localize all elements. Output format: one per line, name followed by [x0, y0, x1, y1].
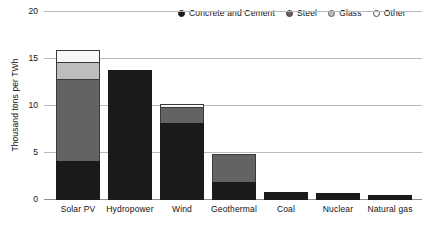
bar-group[interactable]	[368, 11, 412, 199]
bar-stack	[108, 70, 152, 199]
bar-stack	[212, 154, 256, 199]
x-axis-labels: Solar PVHydropowerWindGeothermalCoalNucl…	[44, 203, 422, 223]
bar-segment[interactable]	[212, 154, 256, 183]
bar-group[interactable]	[316, 11, 360, 199]
bar-segment[interactable]	[56, 62, 100, 80]
bars-container	[44, 11, 422, 199]
bar-segment[interactable]	[316, 193, 360, 200]
y-tick-label-20: 20	[29, 7, 38, 16]
bar-group[interactable]	[212, 11, 256, 199]
bar-segment[interactable]	[108, 70, 152, 200]
bar-segment[interactable]	[160, 123, 204, 200]
bar-stack	[56, 50, 100, 199]
y-tick-label-0: 0	[33, 195, 38, 204]
bar-stack	[368, 195, 412, 199]
bar-stack	[264, 192, 308, 199]
chart-figure: Concrete and Cement Steel Glass Other Th…	[0, 0, 425, 237]
bar-segment[interactable]	[56, 161, 100, 200]
y-axis-title: Thousand tons per TWh	[8, 20, 22, 190]
bar-group[interactable]	[264, 11, 308, 199]
y-tick-label-10: 10	[29, 101, 38, 110]
bar-group[interactable]	[108, 11, 152, 199]
x-tick-label: Natural gas	[358, 203, 422, 215]
bar-segment[interactable]	[368, 195, 412, 200]
bar-stack	[160, 104, 204, 199]
plot-area: 05101520	[44, 11, 422, 199]
bar-group[interactable]	[160, 11, 204, 199]
bar-segment[interactable]	[212, 182, 256, 200]
bar-segment[interactable]	[56, 79, 100, 162]
bar-segment[interactable]	[160, 107, 204, 124]
bar-stack	[316, 193, 360, 199]
y-tick-label-15: 15	[29, 54, 38, 63]
bar-segment[interactable]	[264, 192, 308, 200]
bar-group[interactable]	[56, 11, 100, 199]
y-tick-label-5: 5	[33, 148, 38, 157]
